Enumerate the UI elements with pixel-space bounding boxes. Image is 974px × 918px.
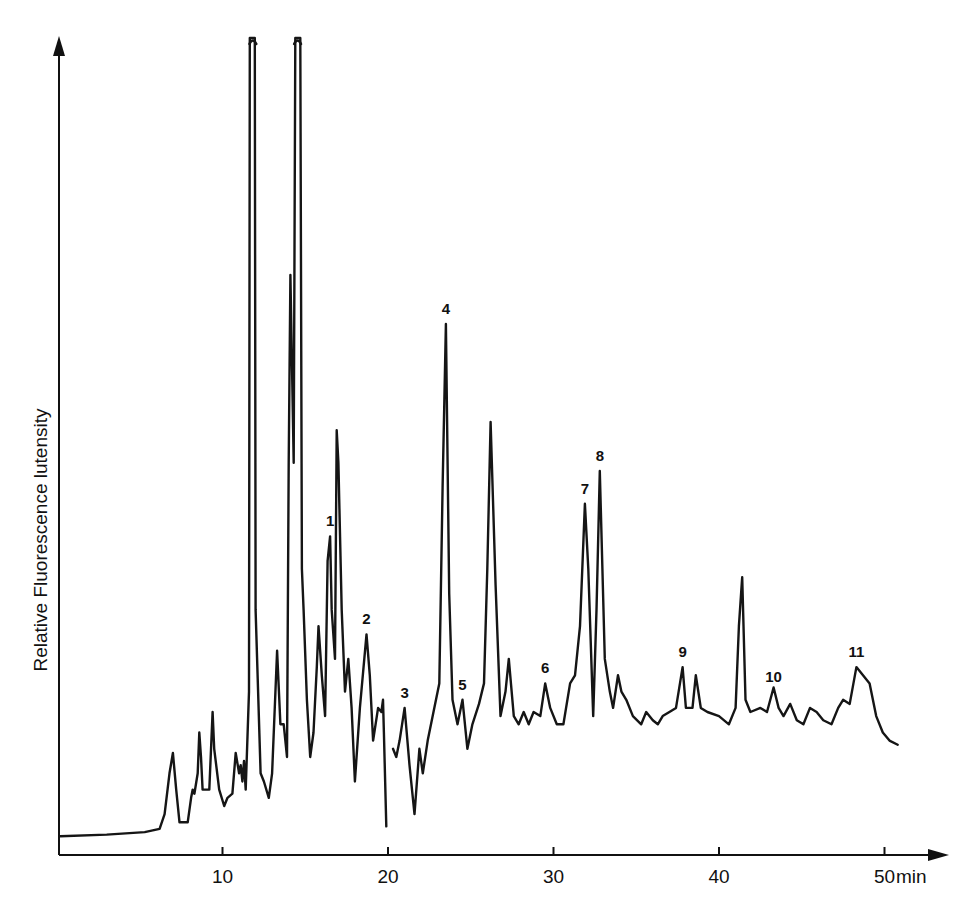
chromatogram-trace bbox=[60, 38, 897, 836]
x-tick-label: 30 bbox=[543, 866, 564, 887]
peak-label-8: 8 bbox=[596, 447, 604, 464]
x-axis-arrow-icon bbox=[928, 849, 949, 861]
peak-label-4: 4 bbox=[442, 300, 451, 317]
peak-label-9: 9 bbox=[678, 643, 686, 660]
off-scale-peak-cap bbox=[294, 41, 301, 45]
x-tick-label: 40 bbox=[708, 866, 729, 887]
x-axis-tick-labels: 1020304050 bbox=[212, 866, 895, 887]
x-tick-label: 50 bbox=[874, 866, 895, 887]
chromatogram-chart: 1020304050 min Relative Fluorescence lut… bbox=[0, 0, 974, 918]
x-tick-label: 10 bbox=[212, 866, 233, 887]
peak-label-1: 1 bbox=[326, 512, 334, 529]
peak-label-11: 11 bbox=[848, 643, 864, 660]
peak-label-6: 6 bbox=[541, 659, 549, 676]
off-scale-peak-cap bbox=[249, 41, 256, 45]
y-axis-label: Relative Fluorescence lutensity bbox=[30, 408, 51, 671]
x-axis-unit-label: min bbox=[896, 866, 927, 887]
x-tick-label: 20 bbox=[377, 866, 398, 887]
y-axis-arrow-icon bbox=[53, 36, 65, 56]
trace-segment bbox=[393, 324, 898, 814]
peak-label-2: 2 bbox=[362, 610, 370, 627]
peak-label-5: 5 bbox=[458, 676, 466, 693]
peak-label-7: 7 bbox=[581, 480, 589, 497]
peak-label-10: 10 bbox=[765, 668, 782, 685]
peak-label-3: 3 bbox=[400, 684, 408, 701]
x-axis-ticks bbox=[223, 847, 885, 855]
trace-segment bbox=[60, 38, 386, 836]
